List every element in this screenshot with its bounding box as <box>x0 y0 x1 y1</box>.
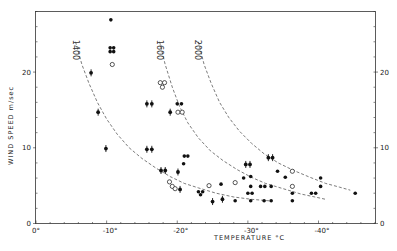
point-filled-bar <box>178 188 182 192</box>
y-tick-label-left: 0 <box>27 220 31 228</box>
point-open <box>233 181 237 185</box>
x-tick-label: -20° <box>173 227 188 235</box>
point-filled-bar <box>266 156 270 160</box>
point-filled <box>262 199 266 203</box>
point-filled <box>249 199 253 203</box>
point-filled <box>108 46 112 50</box>
point-filled-bar <box>96 110 100 114</box>
point-filled <box>242 176 246 180</box>
x-tick-label: -10° <box>103 227 118 235</box>
curve-1600 <box>160 42 326 200</box>
point-filled <box>186 154 190 158</box>
point-filled-bar <box>176 170 180 174</box>
point-open <box>167 180 171 184</box>
point-filled <box>233 199 237 203</box>
point-filled-bar <box>145 102 149 106</box>
point-filled <box>319 185 323 189</box>
curve-1400 <box>76 42 270 201</box>
point-filled <box>219 182 223 186</box>
y-tick-label-right: 10 <box>380 144 389 152</box>
point-filled <box>269 199 273 203</box>
point-open <box>110 62 114 66</box>
point-filled <box>201 190 205 194</box>
y-tick-label-left: 20 <box>22 69 31 77</box>
point-filled-bar <box>89 71 93 75</box>
point-open <box>173 187 177 191</box>
x-tick-label: 0° <box>32 227 40 235</box>
point-filled-bar <box>211 200 215 204</box>
curve-label-1600: 1600 <box>155 40 164 60</box>
point-filled-bar <box>248 163 252 167</box>
point-filled <box>183 154 187 158</box>
point-filled-bar <box>145 147 149 151</box>
y-tick-label-left: 10 <box>22 144 31 152</box>
x-axis-title: TEMPERATURE °C <box>213 234 285 242</box>
point-open <box>207 184 211 188</box>
y-tick-label-right: 20 <box>380 69 389 77</box>
x-tick-label: -40° <box>315 227 330 235</box>
point-open <box>290 169 294 173</box>
point-filled <box>353 191 357 195</box>
point-filled <box>199 193 203 197</box>
point-filled <box>109 18 113 22</box>
point-filled-bar <box>271 156 275 160</box>
point-open <box>162 81 166 85</box>
point-filled-bar <box>150 102 154 106</box>
point-filled <box>249 185 253 189</box>
point-filled-bar <box>163 169 167 173</box>
data-points <box>89 18 357 205</box>
point-filled-bar <box>168 110 172 114</box>
point-filled <box>276 169 280 173</box>
point-filled <box>182 162 186 166</box>
y-tick-label-right: 0 <box>380 220 384 228</box>
point-filled <box>314 191 318 195</box>
point-open <box>176 110 180 114</box>
point-filled <box>175 102 179 106</box>
curve-2000 <box>198 42 350 190</box>
plot-frame <box>36 12 376 224</box>
y-axis-title: WIND SPEED m/sec <box>7 86 15 165</box>
point-filled <box>319 176 323 180</box>
point-filled <box>263 185 267 189</box>
point-filled-bar <box>159 169 163 173</box>
point-filled <box>249 175 253 179</box>
x-axis: 0°-10°-20°-30°-40° <box>32 221 375 235</box>
point-filled <box>259 185 263 189</box>
point-filled <box>269 185 273 189</box>
point-filled-bar <box>221 197 225 201</box>
point-filled <box>291 199 295 203</box>
point-filled <box>197 190 201 194</box>
point-filled <box>112 50 116 54</box>
point-filled <box>180 102 184 106</box>
curve-label-1400: 1400 <box>71 40 80 60</box>
point-filled <box>310 191 314 195</box>
point-filled <box>250 191 254 195</box>
point-open <box>290 184 294 188</box>
point-filled-bar <box>244 163 248 167</box>
point-filled <box>284 176 288 180</box>
point-open <box>158 81 162 85</box>
point-filled <box>246 191 250 195</box>
point-filled <box>112 46 116 50</box>
point-filled-bar <box>150 147 154 151</box>
point-filled <box>108 50 112 54</box>
chart: 0°-10°-20°-30°-40° 01020 01020 140016002… <box>0 0 397 251</box>
point-open <box>160 85 164 89</box>
point-open <box>180 110 184 114</box>
point-filled-bar <box>104 147 108 151</box>
curve-label-2000: 2000 <box>193 40 202 60</box>
point-filled <box>291 191 295 195</box>
